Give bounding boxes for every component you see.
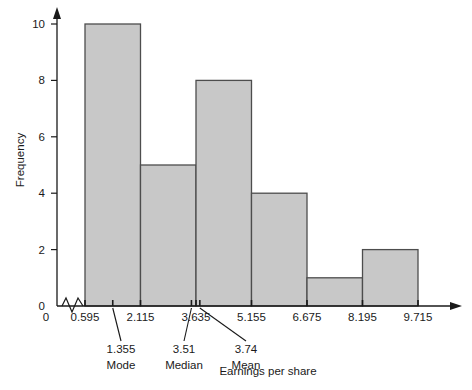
x-axis-break-zigzag xyxy=(62,298,83,312)
x-tick-label: 8.195 xyxy=(348,311,377,323)
annotation-value-label: 3.74 xyxy=(235,343,258,355)
bars-group xyxy=(85,24,418,306)
x-tick-label: 9.715 xyxy=(404,311,433,323)
histogram-bar xyxy=(363,250,419,306)
annotation-leader-line xyxy=(113,308,121,341)
histogram-bar xyxy=(196,80,252,306)
histogram-bar xyxy=(85,24,141,306)
annotation-name-label: Mode xyxy=(107,359,136,371)
x-axis-arrowhead xyxy=(450,302,462,310)
histogram-bar xyxy=(252,193,308,306)
y-tick-label: 8 xyxy=(39,74,45,86)
histogram-bar xyxy=(141,165,197,306)
x-tick-label: 2.115 xyxy=(127,311,155,323)
x-tick-label: 0.595 xyxy=(71,311,100,323)
y-axis-arrowhead xyxy=(53,7,61,19)
x-tick-label: 5.155 xyxy=(237,311,266,323)
annotation-value-label: 1.355 xyxy=(107,343,136,355)
annotation-value-label: 3.51 xyxy=(173,343,195,355)
histogram-bar xyxy=(307,278,363,306)
y-tick-label: 6 xyxy=(39,131,45,143)
y-tick-label: 4 xyxy=(39,187,46,199)
annotation-name-label: Median xyxy=(165,359,203,371)
x-tick-label: 6.675 xyxy=(293,311,322,323)
y-axis-title: Frequency xyxy=(14,133,26,188)
x-axis-title: Earnings per share xyxy=(219,365,316,377)
histogram-plot: 0246810 0.5952.1153.6355.1556.6758.1959.… xyxy=(0,0,472,390)
y-tick-group: 0246810 xyxy=(32,18,57,312)
y-tick-label: 10 xyxy=(32,18,45,30)
histogram-figure: 0246810 0.5952.1153.6355.1556.6758.1959.… xyxy=(0,0,472,390)
x-axis-origin-label: 0 xyxy=(43,311,49,323)
y-tick-label: 2 xyxy=(39,244,45,256)
